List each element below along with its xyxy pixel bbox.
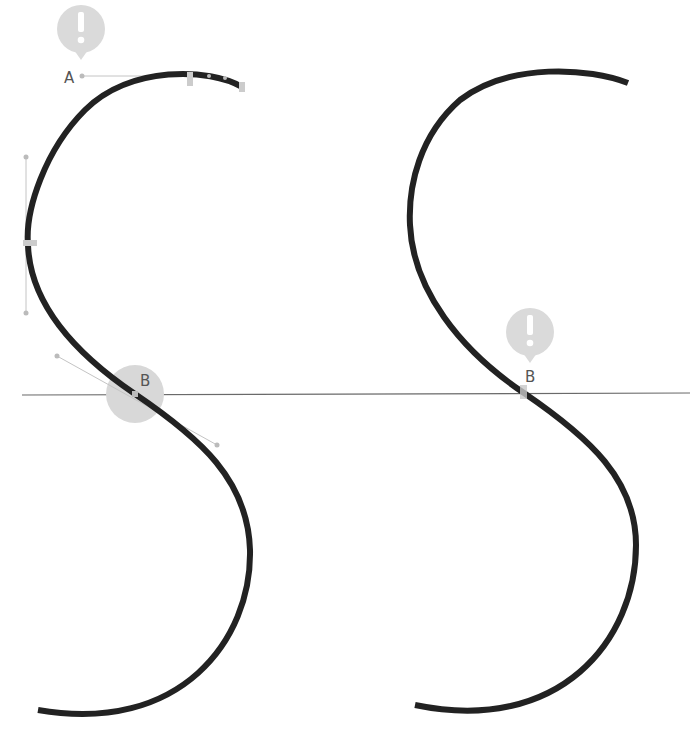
handle-point-b-left[interactable] [55,354,60,359]
right-s-curve-group[interactable]: B [410,71,636,710]
warning-badge-left[interactable] [57,5,105,60]
warning-badge-right[interactable] [506,308,554,363]
anchor-end[interactable] [239,82,245,92]
handle-point-a[interactable] [80,74,85,79]
canvas: A B B [0,0,690,743]
handle-point-b-right[interactable] [215,443,220,448]
anchor-b-right[interactable] [520,385,527,399]
label-b-left: B [140,372,150,390]
handle-point-top-2[interactable] [223,76,227,80]
label-b-right: B [525,368,535,386]
handle-point-left-top[interactable] [24,155,29,160]
anchor-b[interactable] [132,391,138,397]
anchor-left[interactable] [23,240,37,246]
left-s-curve-group[interactable]: A B [23,5,250,714]
exclamation-icon [78,12,84,32]
handle-point-left-bottom[interactable] [24,311,29,316]
anchor-top[interactable] [187,72,193,86]
label-a: A [64,69,75,87]
exclamation-icon [527,315,533,335]
handle-point-top-1[interactable] [207,74,211,78]
